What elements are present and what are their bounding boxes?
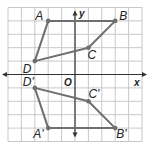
x-axis-arrow-right-icon [142, 72, 147, 77]
origin-label: O [64, 77, 72, 88]
vertex-label: A' [32, 127, 44, 141]
y-axis-arrow-up-icon [73, 11, 78, 16]
coordinate-plane-svg: ABCDA'B'C'D' x y O [0, 0, 153, 145]
vertex-point [113, 19, 118, 24]
vertex-point [33, 59, 38, 64]
y-axis-label: y [78, 8, 85, 19]
x-axis-arrow-left-icon [2, 72, 7, 77]
vertex-label: B' [116, 127, 127, 141]
vertex-point [46, 19, 51, 24]
y-axis-arrow-down-icon [73, 133, 78, 138]
vertex-label: D' [23, 75, 35, 89]
vertex-label: C' [88, 87, 100, 101]
vertex-point [46, 126, 51, 131]
vertex-label: B [119, 9, 127, 23]
coordinate-plane: ABCDA'B'C'D' x y O [0, 0, 153, 145]
vertex-label: A [34, 9, 43, 23]
vertex-label: C [87, 48, 96, 62]
x-axis-label: x [133, 77, 140, 88]
